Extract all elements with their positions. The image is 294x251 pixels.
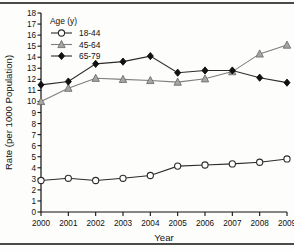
x-tick-label: 2005: [169, 219, 188, 228]
x-axis-title: Year: [154, 232, 174, 243]
data-point: [284, 156, 290, 162]
x-axis: 2000200120022003200420052006200720082009: [32, 212, 294, 228]
series-line: [41, 159, 287, 181]
x-tick-label: 2000: [32, 219, 51, 228]
x-tick-label: 2002: [87, 219, 106, 228]
y-tick-label: 7: [31, 131, 36, 140]
x-tick-label: 2007: [223, 219, 242, 228]
data-point: [283, 41, 290, 48]
y-tick-label: 12: [27, 75, 37, 84]
legend-marker: [58, 30, 64, 36]
series-65-79: [38, 53, 290, 89]
data-point: [284, 79, 290, 86]
data-point: [175, 69, 181, 76]
legend-marker: [58, 52, 64, 59]
series-layer: [37, 41, 290, 184]
y-tick-label: 9: [31, 109, 36, 118]
y-tick-label: 18: [27, 9, 37, 18]
y-tick-label: 14: [27, 53, 37, 62]
data-point: [120, 58, 126, 65]
y-tick-label: 6: [31, 142, 36, 151]
data-point: [175, 163, 181, 169]
data-point: [147, 53, 153, 60]
y-tick-label: 13: [27, 64, 37, 73]
data-point: [38, 177, 44, 183]
y-tick-label: 0: [31, 208, 36, 217]
data-point: [229, 161, 235, 167]
data-point: [93, 60, 99, 67]
data-point: [38, 81, 44, 88]
y-axis: 0123456789101112131415161718: [27, 9, 41, 217]
x-tick-label: 2004: [141, 219, 160, 228]
x-tick-label: 2008: [251, 219, 270, 228]
y-tick-label: 2: [31, 186, 36, 195]
chart-legend: Age (y)18-4445-6465-79: [50, 16, 101, 61]
data-point: [147, 172, 153, 178]
data-point: [202, 67, 208, 74]
x-tick-label: 2006: [196, 219, 215, 228]
y-tick-label: 3: [31, 175, 36, 184]
data-point: [93, 177, 99, 183]
figure-container: 0123456789101112131415161718 20002001200…: [0, 0, 294, 251]
y-tick-label: 11: [28, 86, 37, 95]
legend-label: 65-79: [79, 51, 101, 61]
data-point: [65, 78, 71, 85]
y-tick-label: 16: [27, 31, 37, 40]
y-tick-label: 15: [27, 42, 37, 51]
legend-label: 18-44: [79, 28, 101, 38]
x-tick-label: 2003: [114, 219, 133, 228]
legend-label: 45-64: [79, 40, 101, 50]
legend-title: Age (y): [50, 16, 77, 26]
series-line: [41, 45, 287, 101]
data-point: [257, 74, 263, 81]
line-chart: 0123456789101112131415161718 20002001200…: [0, 0, 294, 251]
series-18-44: [38, 156, 290, 184]
y-axis-title: Rate (per 1000 Population): [3, 55, 14, 170]
series-45-64: [37, 41, 290, 104]
y-tick-label: 1: [31, 197, 36, 206]
data-point: [65, 175, 71, 181]
data-point: [120, 175, 126, 181]
y-tick-label: 17: [27, 20, 37, 29]
x-tick-label: 2009: [278, 219, 294, 228]
x-tick-label: 2001: [59, 219, 78, 228]
y-tick-label: 5: [31, 153, 36, 162]
y-tick-label: 4: [31, 164, 36, 173]
y-tick-label: 8: [31, 120, 36, 129]
data-point: [257, 159, 263, 165]
y-tick-label: 10: [27, 97, 37, 106]
data-point: [202, 162, 208, 168]
